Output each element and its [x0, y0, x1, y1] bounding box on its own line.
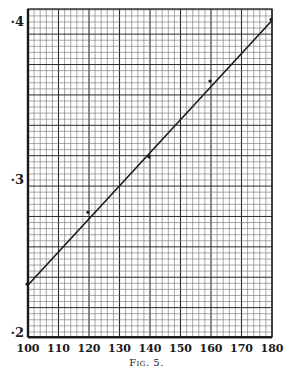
figure-caption: Fig. 5.: [0, 357, 293, 368]
data-point: [86, 211, 89, 214]
y-tick-label: ·4: [10, 14, 24, 29]
x-tick-label: 100: [17, 342, 40, 355]
x-tick-label: 110: [47, 342, 70, 355]
y-tick-label: ·2: [10, 325, 24, 340]
x-tick-label: 160: [200, 342, 223, 355]
x-tick-label: 120: [78, 342, 101, 355]
x-axis-labels: 100110120130140150160170180: [17, 342, 284, 355]
x-tick-label: 170: [230, 342, 253, 355]
x-tick-label: 130: [108, 342, 131, 355]
x-tick-label: 150: [169, 342, 192, 355]
line-chart: ·2·3·4 100110120130140150160170180: [0, 0, 293, 380]
chart-grid: [28, 9, 272, 338]
data-point: [269, 18, 272, 21]
data-point: [147, 155, 150, 158]
y-axis-labels: ·2·3·4: [10, 14, 24, 340]
data-point: [208, 79, 211, 82]
x-tick-label: 180: [261, 342, 284, 355]
data-point: [25, 282, 28, 285]
x-tick-label: 140: [139, 342, 162, 355]
y-tick-label: ·3: [10, 172, 24, 187]
